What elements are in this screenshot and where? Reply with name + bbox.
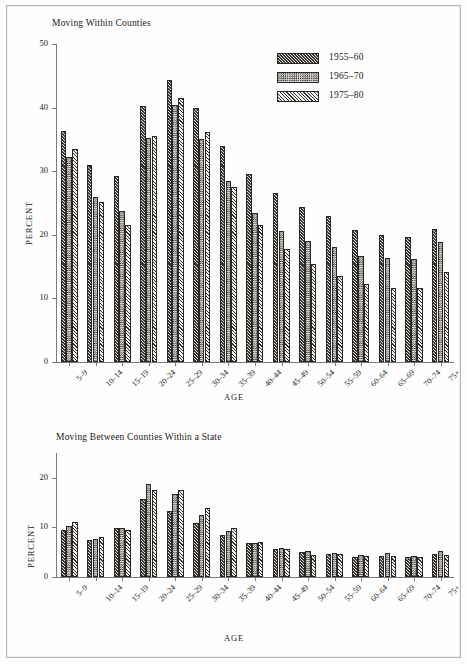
y-axis-tick <box>52 577 56 578</box>
bar <box>417 288 422 362</box>
x-axis-tick <box>414 578 415 581</box>
x-axis-tick <box>175 363 176 366</box>
x-axis-tick <box>122 363 123 366</box>
x-axis-tick-label: 60–64 <box>369 368 390 389</box>
bar-group <box>193 453 211 577</box>
x-axis-tick-label: 25–29 <box>183 583 204 604</box>
bar <box>417 557 422 577</box>
bar-group <box>379 453 397 577</box>
x-axis-tick-label: 45–49 <box>289 583 310 604</box>
bar <box>385 553 390 577</box>
bar <box>99 537 104 577</box>
bar <box>114 528 119 577</box>
bar <box>438 551 443 577</box>
bar-group <box>140 44 158 362</box>
bar <box>385 258 390 362</box>
x-axis-tick-label: 25–29 <box>183 368 204 389</box>
x-axis-tick-label: 55–59 <box>343 583 364 604</box>
x-axis-tick <box>441 363 442 366</box>
bar-group <box>379 44 397 362</box>
x-axis-tick-label: 50–54 <box>316 583 337 604</box>
bar <box>379 235 384 362</box>
x-axis-tick <box>122 578 123 581</box>
bar <box>305 551 310 577</box>
bar-group <box>405 44 423 362</box>
bar-group <box>167 44 185 362</box>
y-axis-tick-label: 30 <box>22 165 48 175</box>
bar <box>279 548 284 577</box>
x-axis-tick-label: 30–34 <box>210 583 231 604</box>
x-axis-tick <box>335 363 336 366</box>
bar-group <box>140 453 158 577</box>
y-axis-tick-label: 0 <box>22 571 48 581</box>
y-axis-tick <box>52 44 56 45</box>
y-axis-tick-label: 50 <box>22 38 48 48</box>
x-axis-tick <box>282 363 283 366</box>
y-axis-tick <box>52 108 56 109</box>
y-axis-tick <box>52 171 56 172</box>
bar <box>432 554 437 577</box>
bar <box>220 146 225 362</box>
x-axis-tick-label: 60–64 <box>369 583 390 604</box>
x-axis-tick-label: 70–74 <box>422 368 443 389</box>
plot-area-bottom: 010205–910–1415–1920–2425–2930–3435–3940… <box>56 453 454 577</box>
bar <box>326 216 331 362</box>
bar <box>87 540 92 577</box>
bar-group <box>432 44 450 362</box>
bar <box>246 174 251 362</box>
bar <box>178 98 183 362</box>
legend-swatch-dark-diagonal-hatch <box>277 53 319 64</box>
x-axis-tick-label: 10–14 <box>104 583 125 604</box>
bar <box>146 138 151 362</box>
bar <box>93 539 98 577</box>
x-axis-tick-label: 75+ <box>446 368 461 383</box>
bar-group <box>87 453 105 577</box>
bar <box>193 108 198 362</box>
bar <box>273 193 278 362</box>
x-axis-tick <box>228 578 229 581</box>
bar <box>391 288 396 362</box>
x-axis-tick-label: 10–14 <box>104 368 125 389</box>
bar-group <box>246 44 264 362</box>
x-axis-label-bottom: AGE <box>224 633 244 643</box>
bar <box>193 523 198 577</box>
y-axis-line <box>56 453 57 577</box>
y-axis-tick-label: 10 <box>22 292 48 302</box>
bar <box>152 490 157 577</box>
bar <box>93 197 98 362</box>
bar-group <box>114 453 132 577</box>
y-axis-tick-label: 10 <box>22 521 48 531</box>
x-axis-tick <box>69 578 70 581</box>
legend-swatch-white-diagonal-hatch <box>277 91 319 102</box>
chart-moving-within-counties: Moving Within Counties PERCENT AGE 01020… <box>0 0 467 410</box>
x-axis-tick <box>388 363 389 366</box>
y-axis-tick <box>52 527 56 528</box>
x-axis-tick-label: 50–54 <box>316 368 337 389</box>
x-axis-tick <box>96 363 97 366</box>
y-axis-tick <box>52 478 56 479</box>
x-axis-tick-label: 75+ <box>446 583 461 598</box>
bar <box>140 106 145 362</box>
bar <box>220 535 225 577</box>
x-axis-tick-label: 20–24 <box>157 583 178 604</box>
bar-group <box>405 453 423 577</box>
plot-area-top: 010203040505–910–1415–1920–2425–2930–343… <box>56 44 454 362</box>
bar <box>252 213 257 362</box>
figure-page: Moving Within Counties PERCENT AGE 01020… <box>0 0 467 664</box>
x-axis-tick <box>202 578 203 581</box>
x-axis-tick <box>149 363 150 366</box>
bar <box>411 556 416 577</box>
bar <box>114 176 119 362</box>
x-axis-tick <box>361 363 362 366</box>
bar-group <box>61 44 79 362</box>
bar-group <box>193 44 211 362</box>
bar <box>119 528 124 577</box>
y-axis-line <box>56 44 57 362</box>
bar <box>311 555 316 577</box>
bar <box>72 522 77 577</box>
bar <box>444 555 449 577</box>
bar <box>199 139 204 362</box>
bar <box>146 484 151 577</box>
x-axis-tick <box>361 578 362 581</box>
bar <box>332 247 337 362</box>
